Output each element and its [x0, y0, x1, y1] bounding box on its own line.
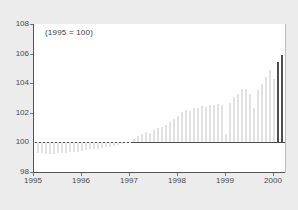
y-tick-label: 98: [3, 168, 29, 176]
bar: [209, 105, 211, 142]
bar: [233, 97, 235, 142]
bar: [133, 139, 135, 143]
right-axis-spine: [285, 24, 286, 173]
bar: [45, 142, 47, 154]
bar: [249, 94, 251, 142]
x-tick-label: 1997: [112, 176, 146, 185]
bar: [37, 142, 39, 152]
bar: [121, 142, 123, 143]
x-tick-label: 1998: [160, 176, 194, 185]
bar: [69, 142, 71, 152]
bar: [53, 142, 55, 154]
bar: [225, 134, 227, 142]
bar: [181, 112, 183, 142]
bar: [189, 111, 191, 143]
bar: [89, 142, 91, 149]
bar: [129, 142, 131, 143]
bar: [65, 142, 67, 152]
x-tick-mark: [33, 173, 34, 176]
bar: [269, 70, 271, 143]
bar: [153, 130, 155, 143]
bar: [261, 84, 263, 142]
bar: [237, 94, 239, 142]
bar: [105, 142, 107, 147]
x-tick-label: 1995: [16, 176, 50, 185]
y-axis-line: [33, 24, 34, 173]
y-tick-label: 108: [3, 20, 29, 28]
bar: [61, 142, 63, 153]
bar: [205, 107, 207, 143]
bar: [93, 142, 95, 149]
bar: [193, 108, 195, 142]
x-tick-mark: [273, 173, 274, 176]
bar: [165, 125, 167, 143]
bar: [137, 136, 139, 143]
y-tick-label: 104: [3, 79, 29, 87]
bar: [213, 105, 215, 143]
bar: [217, 104, 219, 142]
bar: [241, 89, 243, 142]
bar: [229, 103, 231, 142]
bar: [41, 142, 43, 153]
bar: [221, 105, 223, 143]
y-tick-label: 106: [3, 50, 29, 58]
bar: [85, 142, 87, 150]
bar: [201, 106, 203, 142]
bar: [109, 142, 111, 146]
x-tick-label: 1999: [208, 176, 242, 185]
bar: [73, 142, 75, 152]
y-tick-label: 100: [3, 138, 29, 146]
bar: [197, 108, 199, 143]
bar: [273, 79, 275, 143]
bar: [185, 110, 187, 143]
bar: [149, 133, 151, 142]
bar: [81, 142, 83, 151]
bar: [169, 122, 171, 142]
x-axis-line: [33, 172, 286, 173]
bar: [173, 119, 175, 142]
bar: [281, 55, 283, 142]
bar: [117, 142, 119, 144]
bar: [277, 62, 279, 142]
bar: [157, 128, 159, 142]
bar: [49, 142, 51, 154]
bar: [77, 142, 79, 151]
bar: [57, 142, 59, 153]
bar: [125, 142, 127, 143]
y-tick-label: 102: [3, 109, 29, 117]
bar-chart-figure: 98100102104106108 1995199619971998199920…: [0, 0, 298, 210]
bar: [145, 132, 147, 142]
x-tick-label: 2000: [256, 176, 290, 185]
bar: [97, 142, 99, 148]
bar: [257, 90, 259, 143]
x-tick-mark: [129, 173, 130, 176]
bar: [101, 142, 103, 148]
bar: [177, 116, 179, 143]
bar: [253, 108, 255, 143]
x-tick-mark: [225, 173, 226, 176]
bar: [245, 89, 247, 142]
x-tick-mark: [81, 173, 82, 176]
bar: [113, 142, 115, 145]
bar: [265, 77, 267, 142]
bar: [161, 127, 163, 143]
index-base-annotation: (1995 = 100): [45, 28, 93, 37]
plot-area: [33, 24, 285, 172]
bar: [141, 134, 143, 142]
x-tick-label: 1996: [64, 176, 98, 185]
x-tick-mark: [177, 173, 178, 176]
